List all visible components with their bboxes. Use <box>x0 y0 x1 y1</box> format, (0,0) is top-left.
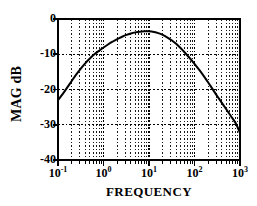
x-tick-mantissa: 10 <box>49 166 61 180</box>
x-axis-label: FREQUENCY <box>58 182 240 200</box>
x-tick-label: 101 <box>141 167 157 179</box>
x-tick-exponent: 1 <box>153 165 157 174</box>
x-axis-label-text: FREQUENCY <box>106 184 192 199</box>
x-tick-mantissa: 10 <box>232 166 244 180</box>
x-tick-label: 102 <box>187 167 203 179</box>
x-tick-label: 103 <box>232 167 248 179</box>
bode-magnitude-plot-figure: 0-10-20-30-40 10-1100101102103 MAG dB FR… <box>0 0 257 206</box>
y-axis-label: MAG dB <box>6 42 28 146</box>
x-tick-label: 100 <box>96 167 112 179</box>
x-tick-mantissa: 10 <box>141 166 153 180</box>
x-tick-exponent: -1 <box>61 165 68 174</box>
x-tick-mantissa: 10 <box>187 166 199 180</box>
x-tick-label: 10-1 <box>49 167 68 179</box>
x-tick-exponent: 0 <box>108 165 112 174</box>
y-axis-label-text: MAG dB <box>9 66 25 122</box>
x-tick-exponent: 3 <box>244 165 248 174</box>
x-tick-mantissa: 10 <box>96 166 108 180</box>
x-tick-exponent: 2 <box>199 165 203 174</box>
x-axis-tick-labels: 10-1100101102103 <box>0 0 257 206</box>
